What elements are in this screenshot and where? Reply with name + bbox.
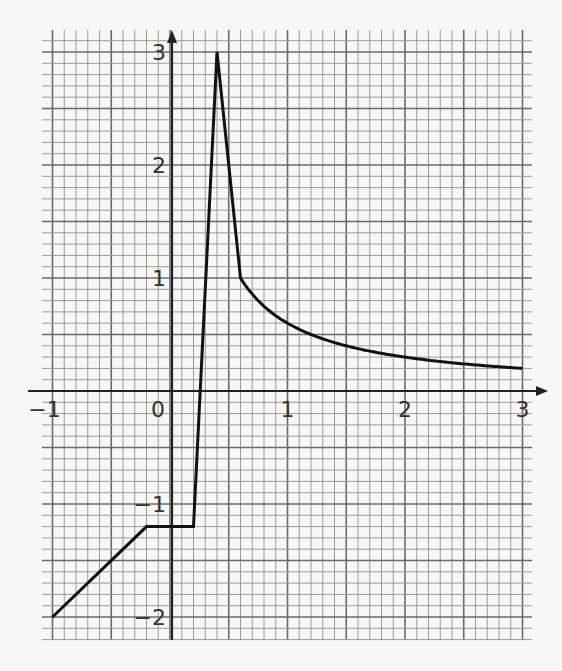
grid bbox=[42, 30, 532, 640]
tick-label: 2 bbox=[152, 153, 166, 178]
tick-label: 1 bbox=[152, 266, 166, 291]
function-graph: −10123321−1−2 bbox=[0, 0, 562, 671]
tick-label: −1 bbox=[134, 492, 166, 517]
x-axis-arrow-icon bbox=[536, 386, 548, 396]
y-axis-arrow-icon bbox=[167, 30, 177, 43]
tick-label: 3 bbox=[516, 397, 530, 422]
tick-label: −2 bbox=[134, 605, 166, 630]
tick-label: 0 bbox=[151, 397, 165, 422]
tick-label: −1 bbox=[28, 397, 60, 422]
tick-label: 1 bbox=[281, 397, 295, 422]
tick-label: 2 bbox=[398, 397, 412, 422]
tick-label: 3 bbox=[152, 40, 166, 65]
